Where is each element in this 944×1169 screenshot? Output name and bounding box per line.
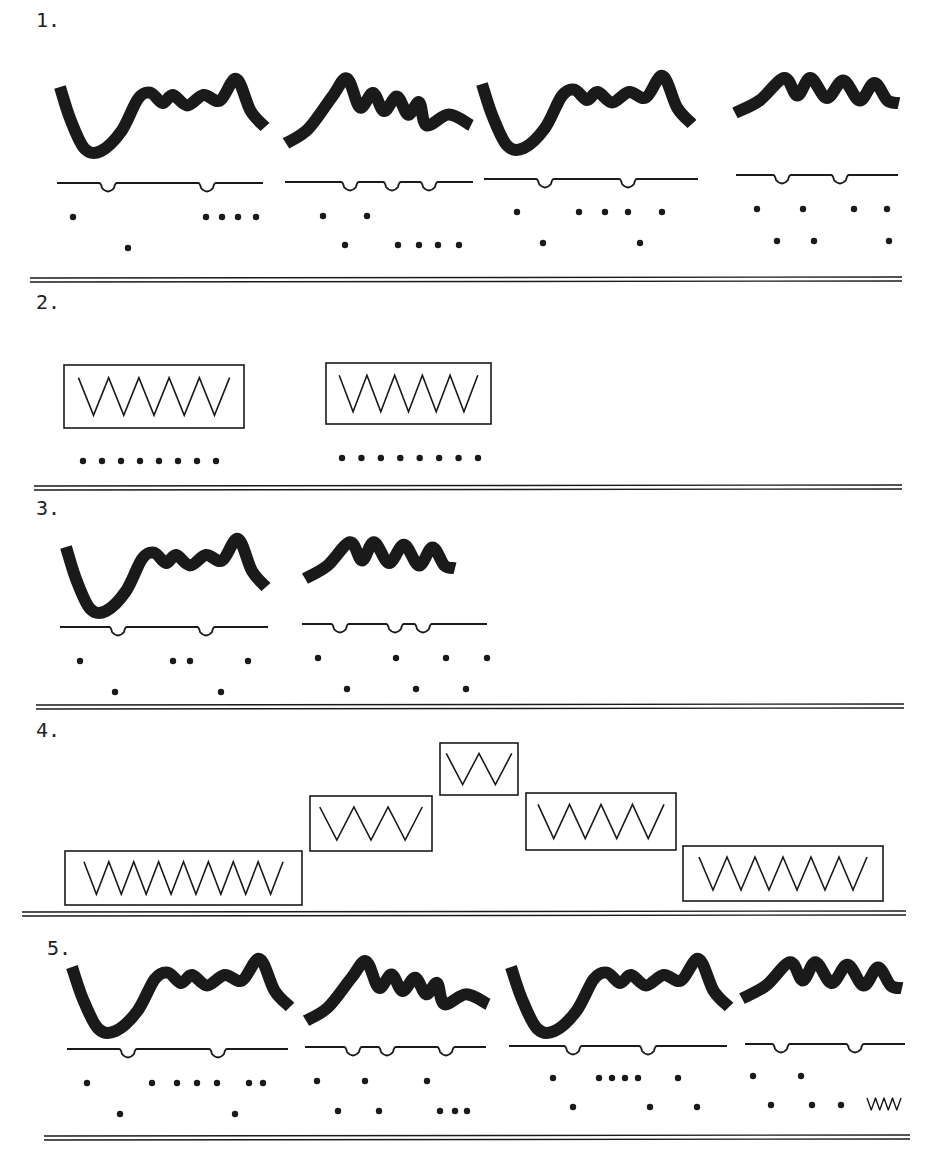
response-dot <box>416 242 422 248</box>
response-dot <box>540 240 546 246</box>
response-dot <box>798 1073 804 1079</box>
response-dot <box>637 240 643 246</box>
response-dot <box>344 686 350 692</box>
zigzag-pattern <box>339 375 478 412</box>
section-divider <box>44 1139 910 1140</box>
response-dot <box>235 214 241 220</box>
waveform-panel <box>509 959 729 1110</box>
waveform-panel <box>67 959 290 1117</box>
response-dot <box>99 458 105 464</box>
squiggle-mark <box>867 1098 901 1110</box>
response-dot <box>484 655 490 661</box>
response-dot <box>125 245 131 251</box>
response-dot <box>156 458 162 464</box>
event-marker-line <box>736 175 898 184</box>
response-dot <box>809 1102 815 1108</box>
response-dot <box>811 238 817 244</box>
response-dot <box>395 242 401 248</box>
response-dot <box>364 213 370 219</box>
response-dot <box>358 455 364 461</box>
response-dot <box>232 1111 238 1117</box>
response-dot <box>187 658 193 664</box>
response-dot <box>342 242 348 248</box>
response-dot <box>246 1080 252 1086</box>
waveform-panel <box>742 962 905 1110</box>
waveform-trace <box>735 78 899 113</box>
event-marker-line <box>484 179 698 188</box>
event-marker-line <box>509 1046 727 1055</box>
event-marker-line <box>302 624 487 633</box>
response-dot <box>625 209 631 215</box>
response-dot <box>435 242 441 248</box>
event-marker-line <box>60 627 268 636</box>
response-dot <box>320 213 326 219</box>
response-dot <box>596 1075 602 1081</box>
section-5 <box>44 959 910 1140</box>
stimulus-box <box>64 365 244 428</box>
waveform-trace <box>482 76 692 150</box>
stimulus-box <box>326 363 491 424</box>
response-dot <box>576 209 582 215</box>
event-marker-line <box>67 1049 288 1058</box>
waveform-panel <box>305 961 488 1114</box>
response-dot <box>213 458 219 464</box>
response-dot <box>456 242 462 248</box>
response-dot <box>768 1102 774 1108</box>
zigzag-pattern <box>446 753 512 784</box>
response-dot <box>800 206 806 212</box>
event-marker-line <box>285 182 473 191</box>
event-marker-line <box>745 1044 905 1053</box>
waveform-panel <box>482 76 698 246</box>
stimulus-box <box>65 851 302 905</box>
response-dot <box>194 1080 200 1086</box>
waveform-panel <box>302 542 490 692</box>
response-dot <box>436 455 442 461</box>
response-dot <box>635 1075 641 1081</box>
response-dot <box>570 1104 576 1110</box>
response-dot <box>443 655 449 661</box>
waveform-panel <box>735 78 899 244</box>
response-dot <box>335 1108 341 1114</box>
section-divider <box>30 281 902 282</box>
response-dot <box>315 655 321 661</box>
waveform-trace <box>306 961 488 1021</box>
waveform-trace <box>66 539 266 613</box>
zigzag-pattern <box>320 807 422 840</box>
response-dot <box>424 1078 430 1084</box>
waveform-trace <box>305 542 455 578</box>
response-dot <box>647 1104 653 1110</box>
section-divider <box>22 911 906 912</box>
response-dot <box>203 214 209 220</box>
section-divider <box>44 1135 910 1136</box>
section-divider <box>34 489 902 490</box>
zigzag-pattern <box>84 862 283 894</box>
response-dot <box>437 1108 443 1114</box>
section-divider <box>34 485 902 486</box>
response-dot <box>194 458 200 464</box>
section-divider <box>22 915 906 916</box>
zigzag-pattern <box>699 857 867 890</box>
response-dot <box>659 209 665 215</box>
response-dot <box>463 686 469 692</box>
response-dot <box>214 1080 220 1086</box>
response-dot <box>750 1073 756 1079</box>
response-dot <box>118 458 124 464</box>
waveform-trace <box>511 959 729 1033</box>
response-dot <box>84 1080 90 1086</box>
response-dot <box>602 209 608 215</box>
response-dot <box>80 458 86 464</box>
waveform-trace <box>60 79 265 153</box>
response-dot <box>170 658 176 664</box>
section-1 <box>30 76 902 282</box>
response-dot <box>77 658 83 664</box>
waveform-panel <box>285 78 473 248</box>
response-dot <box>117 1111 123 1117</box>
response-dot <box>253 214 259 220</box>
stimulus-box <box>526 793 676 850</box>
behavior-diagram <box>0 0 944 1169</box>
zigzag-pattern <box>538 804 664 838</box>
response-dot <box>314 1078 320 1084</box>
response-dot <box>675 1075 681 1081</box>
response-dot <box>219 214 225 220</box>
zigzag-pattern <box>78 378 229 416</box>
